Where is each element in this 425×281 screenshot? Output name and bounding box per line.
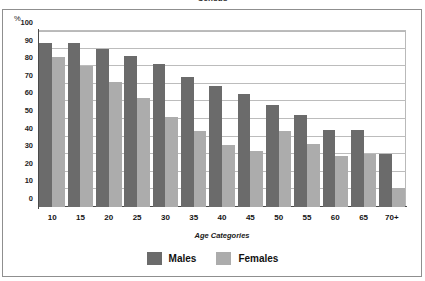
bar-males-40 (209, 86, 222, 207)
bar-males-60 (323, 130, 336, 207)
x-axis-tick-label: 70+ (378, 213, 406, 222)
bar-females-15 (80, 66, 93, 207)
bar-group (123, 31, 151, 207)
y-axis-tick-label: 50 (25, 106, 33, 115)
bar-females-35 (194, 131, 207, 207)
bar-males-30 (153, 64, 166, 207)
bar-males-45 (238, 94, 251, 207)
plot-area: 0102030405060708090100 (38, 31, 406, 207)
bar-group (95, 31, 123, 207)
bar-males-70+ (379, 154, 392, 207)
x-axis-ticks: 10152025303540455055606570+ (38, 213, 406, 222)
bar-females-30 (165, 117, 178, 207)
x-axis-tick-label: 25 (123, 213, 151, 222)
bar-group (265, 31, 293, 207)
y-axis-tick-label: 100 (20, 18, 33, 27)
x-axis-title: Age Categories (38, 231, 406, 240)
legend-label: Females (238, 253, 278, 264)
bar-males-15 (68, 43, 81, 207)
bar-group (321, 31, 349, 207)
bar-females-70+ (392, 188, 405, 207)
bar-group (66, 31, 94, 207)
bar-group (236, 31, 264, 207)
y-axis-tick-label: 80 (25, 53, 33, 62)
bar-females-40 (222, 145, 235, 207)
y-axis-tick-label: 40 (25, 123, 33, 132)
x-axis-tick-label: 35 (180, 213, 208, 222)
chart-title: Census (0, 0, 425, 2)
legend-swatch-males (147, 252, 162, 265)
x-axis-tick-label: 60 (321, 213, 349, 222)
bar-males-20 (96, 49, 109, 207)
chart-container: Census % 0102030405060708090100 10152025… (0, 0, 425, 281)
legend-swatch-females (216, 252, 231, 265)
bar-group (349, 31, 377, 207)
x-axis-tick-label: 50 (265, 213, 293, 222)
x-axis-tick-label: 65 (349, 213, 377, 222)
bar-females-45 (250, 151, 263, 207)
bar-males-50 (266, 105, 279, 207)
bar-group (208, 31, 236, 207)
bar-males-65 (351, 130, 364, 207)
bar-females-25 (137, 98, 150, 207)
x-axis-tick-label: 20 (95, 213, 123, 222)
bar-females-20 (109, 82, 122, 207)
bar-group (293, 31, 321, 207)
x-axis-tick-label: 30 (151, 213, 179, 222)
bar-males-10 (39, 43, 52, 207)
legend-item-males[interactable]: Males (147, 252, 197, 265)
x-axis-tick-label: 10 (38, 213, 66, 222)
bar-females-65 (364, 154, 377, 207)
bar-males-35 (181, 77, 194, 207)
bar-males-55 (294, 115, 307, 207)
y-axis-tick-label: 0 (29, 194, 33, 203)
bar-females-10 (52, 57, 65, 207)
x-axis-tick-label: 40 (208, 213, 236, 222)
x-axis-tick-label: 55 (293, 213, 321, 222)
bar-group (151, 31, 179, 207)
legend-label: Males (169, 253, 197, 264)
bar-groups (38, 31, 406, 207)
bar-males-25 (124, 56, 137, 207)
y-axis-tick-label: 10 (25, 176, 33, 185)
y-axis-tick-label: 70 (25, 70, 33, 79)
bar-group (378, 31, 406, 207)
y-axis-tick-label: 90 (25, 35, 33, 44)
legend-item-females[interactable]: Females (216, 252, 278, 265)
bar-group (180, 31, 208, 207)
y-axis-tick-label: 20 (25, 158, 33, 167)
x-axis-tick-label: 45 (236, 213, 264, 222)
bar-group (38, 31, 66, 207)
chart-legend: MalesFemales (0, 252, 425, 265)
bar-females-50 (279, 131, 292, 207)
x-axis-tick-label: 15 (66, 213, 94, 222)
y-axis-tick-label: 30 (25, 141, 33, 150)
y-axis-tick-label: 60 (25, 88, 33, 97)
bar-females-60 (335, 156, 348, 207)
bar-females-55 (307, 144, 320, 207)
